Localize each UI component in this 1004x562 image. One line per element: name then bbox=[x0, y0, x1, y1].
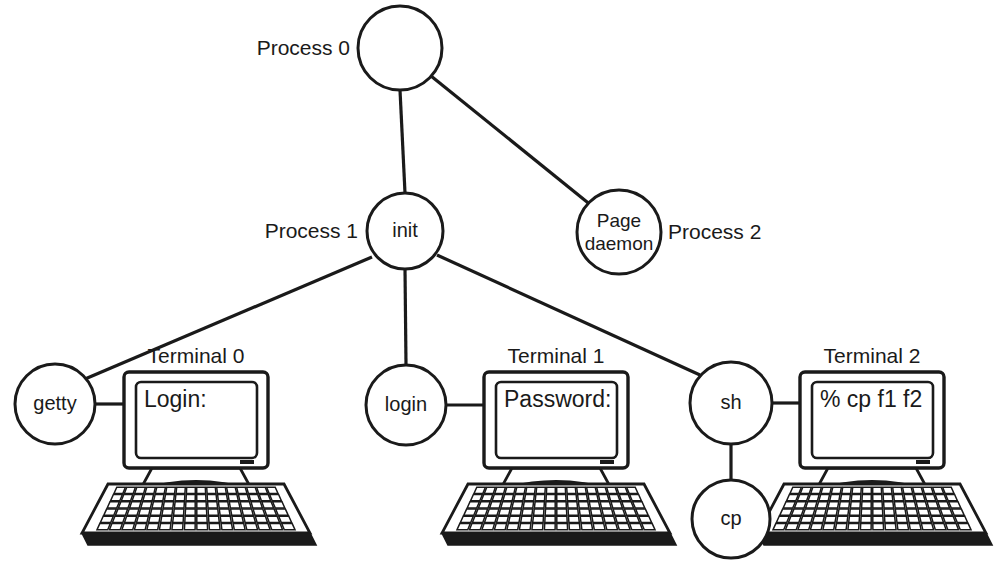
keyboard-key bbox=[569, 516, 580, 522]
keyboard-key bbox=[481, 495, 493, 501]
keyboard-key bbox=[952, 509, 965, 515]
keyboard-key bbox=[121, 495, 133, 501]
node-login[interactable]: login bbox=[366, 365, 446, 445]
keyboard-key bbox=[918, 509, 929, 515]
keyboard-key bbox=[921, 524, 933, 530]
keyboard-key bbox=[615, 516, 627, 522]
keyboard-key bbox=[484, 487, 495, 493]
keyboard-key bbox=[229, 502, 240, 508]
node-cp[interactable]: cp bbox=[692, 480, 770, 558]
keyboard-key bbox=[622, 502, 634, 508]
keyboard-key bbox=[780, 509, 793, 515]
keyboard-key bbox=[819, 495, 830, 501]
keyboard-key bbox=[534, 502, 544, 508]
keyboard-key bbox=[510, 509, 521, 515]
keyboard-key bbox=[803, 509, 815, 515]
keyboard-key bbox=[849, 516, 860, 522]
keyboard-key bbox=[604, 516, 616, 522]
keyboard-key bbox=[218, 495, 228, 501]
keyboard-key bbox=[512, 502, 523, 508]
keyboard-key bbox=[155, 487, 165, 493]
keyboard-key bbox=[270, 524, 283, 530]
keyboard-key bbox=[535, 495, 545, 501]
keyboard-key bbox=[929, 509, 941, 515]
keyboard-key bbox=[174, 509, 184, 515]
keyboard-key bbox=[823, 524, 835, 530]
node-init[interactable]: init bbox=[367, 193, 443, 269]
node-process0[interactable] bbox=[358, 6, 442, 90]
keyboard-key bbox=[134, 524, 146, 530]
keyboard-key bbox=[923, 487, 934, 493]
keyboard-key bbox=[152, 502, 163, 508]
keyboard-key bbox=[873, 495, 882, 501]
terminal2-power-led bbox=[916, 460, 930, 464]
keyboard-key bbox=[110, 524, 123, 530]
keyboard-key bbox=[118, 502, 130, 508]
keyboard-key bbox=[135, 487, 146, 493]
keyboard-key bbox=[955, 516, 968, 522]
keyboard-key bbox=[557, 516, 567, 522]
keyboard-key bbox=[197, 502, 207, 508]
keyboard-key bbox=[197, 509, 207, 515]
keyboard-key bbox=[806, 502, 817, 508]
edge-process0-init bbox=[400, 90, 405, 193]
keyboard-key bbox=[253, 509, 265, 515]
keyboard-key bbox=[485, 516, 497, 522]
keyboard-key bbox=[164, 495, 174, 501]
node-sh[interactable]: sh bbox=[690, 362, 772, 444]
node-cp-label: cp bbox=[720, 507, 741, 529]
node-pagedaemon[interactable]: Page daemon bbox=[577, 190, 661, 274]
keyboard-key bbox=[609, 495, 620, 501]
keyboard-key bbox=[497, 516, 509, 522]
node-pagedaemon-circle[interactable] bbox=[577, 190, 661, 274]
keyboard-key bbox=[267, 516, 280, 522]
keyboard-key bbox=[107, 502, 119, 508]
keyboard-key bbox=[197, 487, 206, 493]
keyboard-key bbox=[905, 502, 916, 508]
keyboard-key bbox=[800, 487, 811, 493]
keyboard-key bbox=[112, 516, 125, 522]
keyboard-key bbox=[627, 516, 640, 522]
keyboard-key bbox=[482, 524, 495, 530]
terminal2-screen-text: % cp f1 f2 bbox=[820, 386, 922, 412]
keyboard-key bbox=[627, 487, 638, 493]
keyboard-key bbox=[940, 509, 952, 515]
keyboard-key bbox=[154, 495, 164, 501]
keyboard-key bbox=[787, 495, 799, 501]
keyboard-key bbox=[132, 495, 143, 501]
keyboard-key bbox=[884, 502, 894, 508]
terminal0-power-led bbox=[240, 460, 254, 464]
keyboard-key bbox=[185, 509, 195, 515]
keyboard-key bbox=[861, 509, 871, 515]
keyboard-key bbox=[838, 509, 849, 515]
process-1-label: Process 1 bbox=[265, 219, 358, 242]
node-process0-circle[interactable] bbox=[358, 6, 442, 90]
keyboard-key bbox=[232, 516, 244, 522]
keyboard-key bbox=[238, 495, 249, 501]
keyboard-key bbox=[172, 524, 183, 530]
keyboard-key bbox=[933, 487, 944, 493]
terminal0-keyboard-base bbox=[82, 533, 316, 545]
keyboard-key bbox=[460, 516, 473, 522]
keyboard-key bbox=[568, 509, 578, 515]
keyboard-key bbox=[808, 495, 819, 501]
terminal0-caption: Terminal 0 bbox=[148, 344, 245, 367]
keyboard-key bbox=[519, 524, 531, 530]
keyboard-key bbox=[209, 524, 220, 530]
keyboard-key bbox=[207, 487, 216, 493]
keyboard-key bbox=[186, 502, 196, 508]
keyboard-key bbox=[220, 516, 231, 522]
keyboard-key bbox=[938, 502, 950, 508]
keyboard-key bbox=[273, 502, 285, 508]
keyboard-key bbox=[174, 502, 184, 508]
keyboard-key bbox=[143, 495, 154, 501]
keyboard-key bbox=[114, 487, 125, 493]
keyboard-key bbox=[815, 509, 826, 515]
keyboard-key bbox=[893, 487, 903, 493]
keyboard-key bbox=[873, 524, 884, 530]
keyboard-key bbox=[162, 509, 173, 515]
node-getty[interactable]: getty bbox=[15, 364, 95, 444]
keyboard-key bbox=[837, 516, 848, 522]
keyboard-key bbox=[873, 516, 883, 522]
keyboard-key bbox=[909, 524, 921, 530]
